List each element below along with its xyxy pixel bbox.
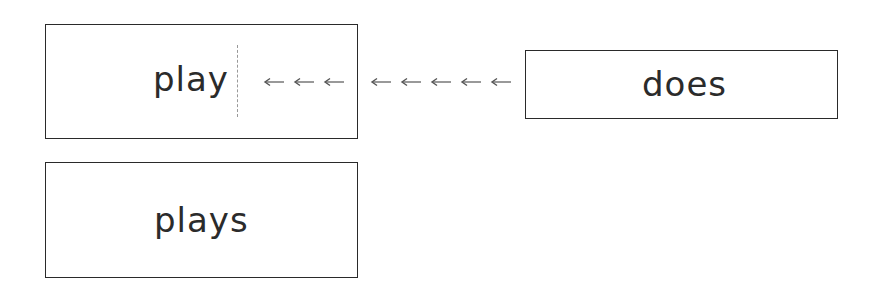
word-plays: plays — [154, 203, 249, 237]
left-arrow-icon — [323, 77, 345, 87]
left-arrow-icon — [400, 77, 422, 87]
word-play: play — [153, 62, 229, 96]
left-arrow-icon — [460, 77, 482, 87]
box-does: does — [525, 50, 838, 119]
cursor-divider — [237, 45, 238, 117]
left-arrow-icon — [490, 77, 512, 87]
left-arrow-icon — [293, 77, 315, 87]
word-does: does — [642, 67, 727, 101]
left-arrow-icon — [263, 77, 285, 87]
box-plays: plays — [45, 162, 358, 278]
left-arrow-icon — [370, 77, 392, 87]
left-arrow-icon — [430, 77, 452, 87]
